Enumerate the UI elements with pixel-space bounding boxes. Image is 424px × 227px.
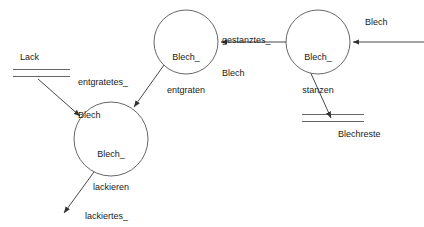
flow-lack-in	[38, 79, 80, 116]
process-label-line-2: entgraten	[167, 85, 205, 96]
flow-label-line-1: entgratetes_	[78, 77, 128, 88]
process-label-line-1: Blech_	[167, 52, 205, 63]
process-label-line-1: Blech_	[302, 52, 334, 63]
flow-label-lackiertes-blech: lackiertes_ Blech	[85, 189, 128, 227]
store-label-lack: Lack	[20, 52, 39, 63]
diagram-canvas	[0, 0, 424, 227]
flow-label-line-1: gestanztes_	[222, 35, 271, 46]
flow-label-entgratetes-blech: entgratetes_ Blech	[78, 55, 128, 143]
process-label-line-1: Blech_	[93, 149, 129, 160]
process-label-blech-entgraten: Blech_ entgraten	[167, 30, 205, 118]
flow-label-line-1: lackiertes_	[85, 211, 128, 222]
data-flow-diagram: Blech_ stanzen Blech_ entgraten Blech_ l…	[0, 0, 424, 227]
flow-entgratetes-blech	[134, 65, 164, 107]
flow-label-line-2: Blech	[78, 110, 128, 121]
flow-label-gestanztes-blech: gestanztes_ Blech	[222, 13, 271, 101]
flow-label-line-2: Blech	[222, 68, 271, 79]
process-label-line-2: stanzen	[302, 85, 334, 96]
process-label-blech-stanzen: Blech_ stanzen	[302, 30, 334, 118]
store-lack[interactable]	[13, 70, 70, 77]
flow-label-blech-in: Blech	[365, 17, 388, 28]
store-label-blechreste: Blechreste	[338, 129, 381, 140]
